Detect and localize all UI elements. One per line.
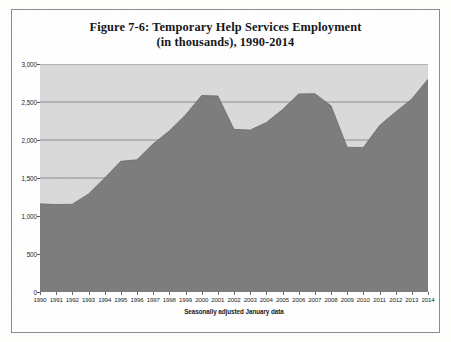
x-axis-tickmark (331, 292, 332, 295)
area-chart-svg (40, 64, 428, 292)
x-axis-tickmark (315, 292, 316, 295)
x-axis-tick-label: 2011 (373, 296, 386, 303)
x-axis-tick-label: 1994 (98, 296, 111, 303)
x-axis-tick-label: 2012 (389, 296, 402, 303)
x-axis-tickmark (56, 292, 57, 295)
x-axis-tick-label: 2006 (292, 296, 305, 303)
y-axis-tickmark (37, 102, 40, 103)
x-axis-tickmark (105, 292, 106, 295)
x-axis-tick-label: 1999 (179, 296, 192, 303)
x-axis-tickmark (169, 292, 170, 295)
y-axis-tick-label: 2,500 (3, 99, 37, 106)
x-axis-tick-label: 2005 (276, 296, 289, 303)
x-axis-tick-label: 2013 (405, 296, 418, 303)
x-axis-tickmark (363, 292, 364, 295)
x-axis-tick-label: 2003 (244, 296, 257, 303)
y-axis-tick-label: 1,500 (3, 175, 37, 182)
employment-area-series (40, 79, 428, 292)
x-axis-tickmark (250, 292, 251, 295)
x-axis-tick-label: 2002 (228, 296, 241, 303)
y-axis-tick-label: 0 (3, 289, 37, 296)
y-axis-tick-label: 2,000 (3, 137, 37, 144)
x-axis-tick-label: 1997 (147, 296, 160, 303)
y-axis-tickmark (37, 216, 40, 217)
x-axis-tick-label: 1993 (82, 296, 95, 303)
x-axis-tick-label: 2008 (325, 296, 338, 303)
x-axis-tickmark (266, 292, 267, 295)
x-axis-tick-label: 2010 (357, 296, 370, 303)
figure-page: Figure 7-6: Temporary Help Services Empl… (0, 0, 451, 342)
y-axis-tick-label: 500 (3, 251, 37, 258)
x-axis-tickmark (137, 292, 138, 295)
y-axis: 3,0002,5002,0001,5001,0005000 (0, 0, 37, 342)
x-axis-tickmark (186, 292, 187, 295)
y-axis-tickmark (37, 64, 40, 65)
y-axis-tickmark (37, 140, 40, 141)
x-axis-tick-label: 2014 (422, 296, 435, 303)
x-axis-tickmark (72, 292, 73, 295)
chart-plot-area (40, 64, 428, 292)
x-axis-tickmark (283, 292, 284, 295)
x-axis-tickmark (234, 292, 235, 295)
x-axis-tick-label: 1996 (131, 296, 144, 303)
x-axis-tick-label: 2001 (211, 296, 224, 303)
x-axis-tickmark (380, 292, 381, 295)
x-axis-tickmark (299, 292, 300, 295)
y-axis-tickmark (37, 254, 40, 255)
x-axis-tickmark (89, 292, 90, 295)
x-axis-tick-label: 1992 (66, 296, 79, 303)
y-axis-tick-label: 3,000 (3, 61, 37, 68)
x-axis-tick-label: 2000 (195, 296, 208, 303)
x-axis-tickmark (347, 292, 348, 295)
x-axis-tickmark (218, 292, 219, 295)
x-axis-tickmark (202, 292, 203, 295)
x-axis-tick-label: 1991 (50, 296, 63, 303)
y-axis-tick-label: 1,000 (3, 213, 37, 220)
x-axis-tickmark (396, 292, 397, 295)
x-axis-tickmark (121, 292, 122, 295)
x-axis-tickmark (153, 292, 154, 295)
x-axis-tick-label: 2009 (341, 296, 354, 303)
axis-note: Seasonally adjusted January data (40, 308, 428, 315)
y-axis-tickmark (37, 178, 40, 179)
x-axis-tick-label: 1995 (114, 296, 127, 303)
x-axis-tickmark (412, 292, 413, 295)
x-axis-tickmark (428, 292, 429, 295)
x-axis-tick-label: 1990 (34, 296, 47, 303)
x-axis: 1990199119921993199419951996199719981999… (40, 296, 428, 308)
x-axis-tick-label: 1998 (163, 296, 176, 303)
x-axis-tick-label: 2004 (260, 296, 273, 303)
x-axis-tick-label: 2007 (308, 296, 321, 303)
x-axis-tickmark (40, 292, 41, 295)
chart-plot-wrapper: 3,0002,5002,0001,5001,0005000 1990199119… (0, 0, 451, 342)
